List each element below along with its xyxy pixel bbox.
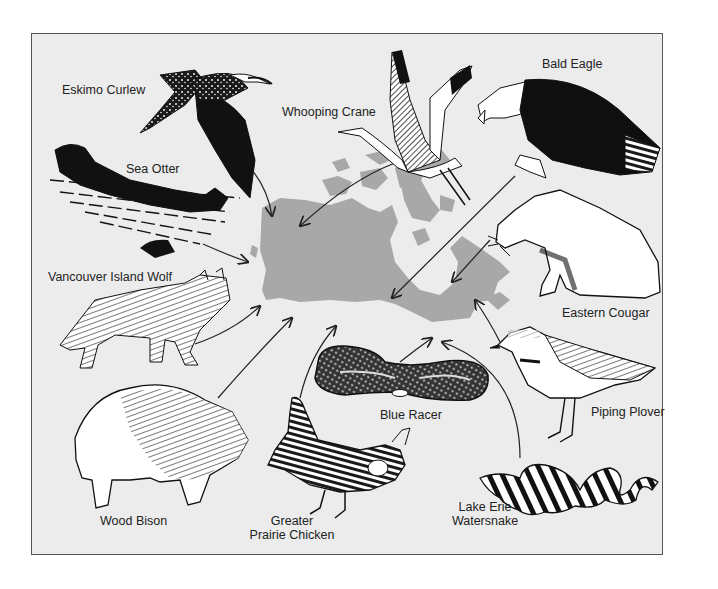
- piping-plover-illustration: [490, 327, 655, 442]
- label-greater-prairie-chicken: Greater Prairie Chicken: [232, 514, 352, 542]
- label-vancouver-island-wolf: Vancouver Island Wolf: [48, 270, 172, 284]
- label-piping-plover: Piping Plover: [591, 405, 665, 419]
- label-greater-prairie-chicken-line1: Greater: [232, 514, 352, 528]
- blue-racer-illustration: [315, 346, 488, 400]
- label-lake-erie-watersnake: Lake Erie Watersnake: [440, 500, 530, 528]
- label-eskimo-curlew: Eskimo Curlew: [62, 83, 145, 97]
- label-lake-erie-watersnake-line1: Lake Erie: [440, 500, 530, 514]
- label-lake-erie-watersnake-line2: Watersnake: [440, 514, 530, 528]
- wood-bison-illustration: [75, 385, 248, 508]
- label-greater-prairie-chicken-line2: Prairie Chicken: [232, 528, 352, 542]
- bald-eagle-illustration: [478, 79, 660, 178]
- label-blue-racer: Blue Racer: [380, 408, 442, 422]
- label-eastern-cougar: Eastern Cougar: [562, 306, 650, 320]
- eskimo-curlew-illustration: [140, 70, 272, 198]
- label-wood-bison: Wood Bison: [100, 514, 167, 528]
- eastern-cougar-illustration: [488, 190, 660, 298]
- label-sea-otter: Sea Otter: [126, 162, 180, 176]
- label-bald-eagle: Bald Eagle: [542, 57, 602, 71]
- label-whooping-crane: Whooping Crane: [282, 105, 376, 119]
- canada-map: [250, 148, 510, 322]
